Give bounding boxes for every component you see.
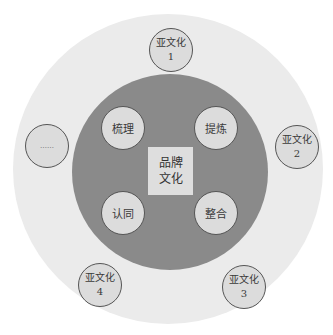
subculture-label: 亚文化 <box>156 36 186 50</box>
subculture-node-3: 亚文化 3 <box>222 265 266 309</box>
subculture-node-1: 亚文化 1 <box>149 28 193 72</box>
process-node-refine: 提炼 <box>194 106 238 150</box>
subculture-node-4: 亚文化 4 <box>78 263 122 307</box>
center-label-line2: 文化 <box>159 171 183 187</box>
process-node-identify: 认同 <box>101 191 145 235</box>
brand-culture-center-box: 品牌 文化 <box>148 147 193 195</box>
center-label-line1: 品牌 <box>159 155 183 171</box>
subculture-number: 2 <box>294 147 300 161</box>
subculture-label: 亚文化 <box>85 271 115 285</box>
subculture-node-ellipsis: …… <box>25 124 69 168</box>
process-node-sort: 梳理 <box>101 106 145 150</box>
subculture-number: 1 <box>168 50 174 64</box>
ellipsis-label: …… <box>40 139 54 153</box>
subculture-label: 亚文化 <box>229 273 259 287</box>
subculture-node-2: 亚文化 2 <box>275 125 319 169</box>
process-label: 整合 <box>205 205 227 221</box>
process-label: 认同 <box>112 205 134 221</box>
subculture-label: 亚文化 <box>282 133 312 147</box>
process-node-integrate: 整合 <box>194 191 238 235</box>
subculture-number: 3 <box>241 287 247 301</box>
process-label: 梳理 <box>112 120 134 136</box>
process-label: 提炼 <box>205 120 227 136</box>
subculture-number: 4 <box>97 285 103 299</box>
